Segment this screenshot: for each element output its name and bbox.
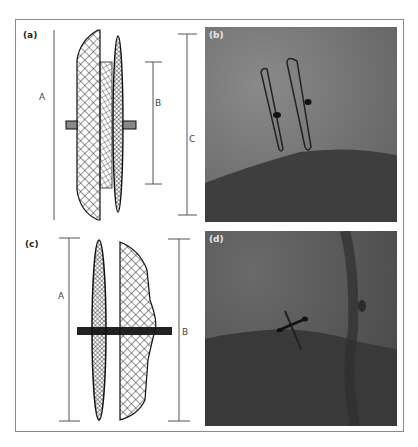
panel-d-label: (d)	[209, 234, 224, 244]
dimension-label-b: B	[182, 327, 188, 337]
dimension-label-a: A	[58, 291, 64, 301]
fluoroscopy-image-d: (d)	[205, 231, 397, 426]
